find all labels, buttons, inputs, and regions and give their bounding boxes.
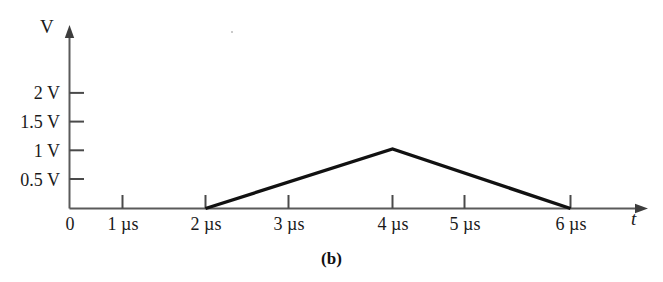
x-tick-label-2us: 2 µs [161,215,251,233]
y-tick-label-1V-wrap: 1 V [0,142,60,160]
y-tick-label-2V-wrap: 2 V [0,84,60,102]
x-tick-label-6us: 6 µs [526,215,616,233]
y-axis [65,25,74,209]
y-tick-label-0.5V-wrap: 0.5 V [0,171,60,189]
scan-speck [231,31,233,33]
x-tick-label-1us: 1 µs [78,215,168,233]
waveform-plot [0,0,663,282]
x-tick-label-3us: 3 µs [244,215,334,233]
y-tick-label-2V: 2 V [0,84,60,102]
y-tick-label-1.5V-wrap: 1.5 V [0,113,60,131]
y-tick-label-1V: 1 V [0,142,60,160]
y-axis-ticks [70,93,85,179]
x-axis-label: t [631,209,636,228]
y-tick-label-1.5V: 1.5 V [0,113,60,131]
x-tick-label-5us: 5 µs [420,215,510,233]
y-axis-label: V [40,17,54,36]
figure-container: V t 2 V 1.5 V 1 V 0.5 V 0 1 µs 2 µs 3 µs… [0,0,663,282]
x-axis-ticks [123,195,571,209]
waveform-trace [206,149,571,209]
y-tick-label-0.5V: 0.5 V [0,171,60,189]
figure-caption: (b) [0,250,663,267]
